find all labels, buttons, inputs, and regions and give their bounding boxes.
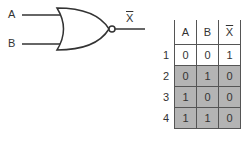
table-row: 0 1 0 xyxy=(175,66,241,87)
nor-gate-body xyxy=(57,8,109,50)
cell-x: 0 xyxy=(219,108,241,129)
output-x-label: X xyxy=(126,12,133,24)
cell-b: 1 xyxy=(197,66,219,87)
cell-b: 0 xyxy=(197,87,219,108)
input-a-label: A xyxy=(8,8,15,20)
truth-table: A B X 0 0 1 0 1 0 1 0 0 1 1 0 xyxy=(174,20,241,129)
input-b-label: B xyxy=(8,37,15,49)
cell-a: 1 xyxy=(175,87,197,108)
cell-a: 0 xyxy=(175,45,197,66)
row-number-3: 3 xyxy=(161,91,171,103)
cell-x: 0 xyxy=(219,87,241,108)
table-row: 1 0 0 xyxy=(175,87,241,108)
header-b: B xyxy=(197,20,219,45)
cell-a: 1 xyxy=(175,108,197,129)
table-row: 0 0 1 xyxy=(175,45,241,66)
header-x: X xyxy=(219,20,241,45)
row-number-2: 2 xyxy=(161,70,171,82)
cell-b: 1 xyxy=(197,108,219,129)
cell-x: 1 xyxy=(219,45,241,66)
table-row: 1 1 0 xyxy=(175,108,241,129)
cell-a: 0 xyxy=(175,66,197,87)
row-number-1: 1 xyxy=(161,49,171,61)
truth-table-header: A B X xyxy=(175,20,241,45)
cell-b: 0 xyxy=(197,45,219,66)
header-a: A xyxy=(175,20,197,45)
cell-x: 0 xyxy=(219,66,241,87)
row-number-4: 4 xyxy=(161,112,171,124)
inversion-bubble xyxy=(109,26,115,32)
nor-gate-diagram xyxy=(0,0,160,70)
